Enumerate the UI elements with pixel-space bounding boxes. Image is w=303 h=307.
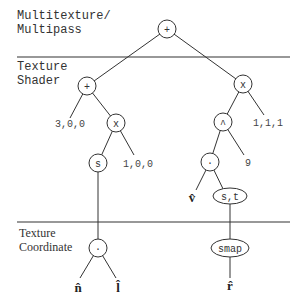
node-label: x [113,119,119,130]
leaf-constant-100: 1,0,0 [123,159,153,170]
node-label: x [240,80,246,91]
node-label: s,t [221,192,239,203]
node-label: · [207,158,213,169]
node-label: + [164,25,170,36]
leaf-exponent-9: 9 [245,158,251,169]
leaf-constant-111: 1,1,1 [253,118,283,129]
leaf-vector-l: l̂ [115,280,121,295]
node-dot-shader: · [201,153,219,171]
leaf-vector-v: v̂ [189,190,196,205]
node-label: · [95,244,101,255]
leaf-vector-n: n̂ [74,280,82,295]
node-label: s [95,159,101,170]
node-label: ^ [220,119,226,130]
node-root-plus: + [158,20,176,38]
leaf-vector-r: r̂ [227,278,233,293]
node-s: s [89,154,107,172]
node-smap: smap [211,239,249,257]
leaf-constant-300: 3,0,0 [55,119,85,130]
node-multiply-right: x [234,75,252,93]
expression-tree: + + x s x ^ · s,t · smap 3,0,0 1,0,0 1,1… [0,0,303,307]
node-multiply-left: x [107,114,125,132]
node-power: ^ [214,113,232,131]
node-shader-plus: + [78,77,96,95]
node-label: + [84,82,90,93]
node-label: smap [218,244,242,255]
node-dot-coordinate: · [89,239,107,257]
node-st: s,t [213,188,247,204]
